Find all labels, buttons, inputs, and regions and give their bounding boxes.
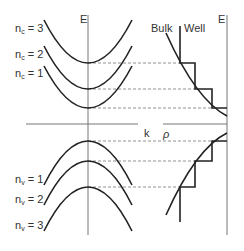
label-nv-1: nv = 1 (15, 174, 43, 186)
k-axis-label: k (144, 128, 150, 139)
well-label: Well (184, 23, 205, 34)
label-nc-2: nc = 2 (15, 49, 43, 61)
label-nc-1: nc = 1 (15, 68, 43, 80)
bulk-label: Bulk (151, 23, 172, 34)
rho-axis-label: ρ (163, 129, 169, 140)
label-nv-3: nv = 3 (15, 220, 43, 232)
left-axis-label-E: E (80, 14, 87, 25)
label-nv-2: nv = 2 (15, 194, 43, 206)
label-nc-3: nc = 3 (15, 23, 43, 35)
band-diagram (0, 0, 244, 251)
right-axis-label-E: E (218, 14, 225, 25)
